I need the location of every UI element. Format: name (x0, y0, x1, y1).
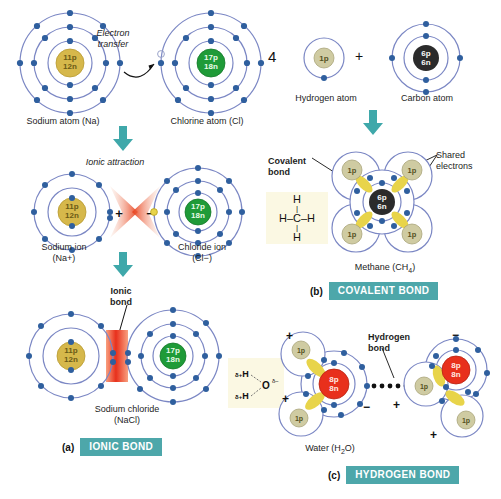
svg-text:+: + (115, 206, 123, 221)
svg-text:8p: 8p (329, 375, 338, 384)
svg-text:12n: 12n (64, 355, 78, 364)
section-b-bar: (b) COVALENT BOND (310, 282, 438, 300)
svg-text:17p: 17p (204, 53, 218, 62)
svg-text:11p: 11p (63, 53, 76, 62)
bond-tick-bottom: | (279, 224, 315, 231)
section-c-bar: (c) HYDROGEN BOND (328, 466, 459, 484)
hydrogen-atom-caption: Hydrogen atom (282, 93, 370, 104)
methane-h-right: H (307, 212, 315, 224)
carbon-atom-caption: Carbon atom (384, 93, 470, 104)
down-arrow-3-icon (360, 110, 386, 136)
charge-left-bottom: + (282, 392, 289, 406)
svg-text:8n: 8n (329, 384, 338, 393)
sodium-atom-caption: Sodium atom (Na) (10, 116, 116, 127)
section-a-name: IONIC BOND (80, 438, 162, 456)
section-c-letter: (c) (328, 470, 340, 481)
section-b-name: COVALENT BOND (329, 282, 439, 300)
sodium-ion: 11p 12n (31, 171, 113, 253)
water-formula-svg: δ+H δ+H O δ− (229, 359, 283, 407)
svg-text:δ+H: δ+H (235, 369, 249, 379)
svg-text:1p: 1p (462, 417, 470, 425)
sodium-chloride-molecule: 11p 12n 17p 1 (18, 305, 248, 403)
hydrogen-count-multiplier: 4 (268, 48, 276, 65)
svg-text:1p: 1p (348, 230, 357, 239)
methane-h-left: H (279, 212, 287, 224)
svg-text:6n: 6n (421, 58, 430, 67)
charge-left-top: + (286, 329, 293, 343)
svg-text:17p: 17p (166, 346, 180, 355)
chloride-ion-bonded: 17p 18n (125, 307, 222, 405)
hydrogen-bond-label: Hydrogen bond (368, 332, 428, 354)
svg-text:8n: 8n (451, 370, 460, 379)
plus-sign: + (355, 48, 363, 64)
chlorine-atom: 17p 18n (158, 10, 265, 116)
ionic-bond-leader-line (119, 305, 127, 333)
sodium-atom: 11p 12n (17, 10, 123, 116)
charge-right-plus-1: + (393, 398, 400, 412)
sodium-ion-bonded: 11p 12n (26, 311, 116, 401)
covalent-bond-label: Covalent bond (268, 156, 320, 178)
svg-text:1p: 1p (319, 54, 328, 63)
svg-text:1p: 1p (420, 383, 428, 391)
shared-electrons-label: Shared electrons (436, 150, 496, 172)
svg-text:11p: 11p (64, 346, 77, 355)
svg-text:6p: 6p (421, 49, 430, 58)
charge-left-delta-minus: − (363, 400, 370, 414)
carbon-atom: 6p 6n (389, 21, 463, 95)
ionic-step1-atoms: 11p 12n (8, 8, 258, 123)
svg-text:18n: 18n (166, 355, 180, 364)
sodium-chloride-caption: Sodium chloride (NaCl) (62, 404, 192, 426)
svg-text:18n: 18n (191, 211, 205, 220)
chlorine-atom-caption: Chlorine atom (Cl) (152, 116, 262, 127)
hydrogen-atom: 1p (304, 38, 344, 81)
section-b-letter: (b) (310, 286, 323, 297)
sodium-ion-caption: Sodium ion (Na+) (18, 242, 110, 264)
svg-text:11p: 11p (65, 202, 78, 211)
svg-text:1p: 1p (408, 166, 417, 175)
section-a-bar: (a) IONIC BOND (62, 438, 162, 456)
svg-text:6n: 6n (377, 202, 386, 211)
methane-h-bottom: H (279, 231, 315, 243)
charge-right-delta-minus: − (452, 328, 459, 342)
svg-text:1p: 1p (297, 347, 305, 355)
down-arrow-2-icon (110, 252, 136, 278)
electron-transfer-label: Electron transfer (78, 28, 148, 50)
methane-structural-formula: H | H–C–H | H (266, 192, 328, 244)
svg-text:12n: 12n (63, 62, 77, 71)
section-a-letter: (a) (62, 442, 74, 453)
svg-text:1p: 1p (348, 166, 357, 175)
charge-right-plus-2: + (430, 428, 437, 442)
figure-canvas: 11p 12n (0, 0, 501, 499)
section-c-name: HYDROGEN BOND (346, 466, 459, 484)
water-molecule-left: 8p 8n 1p 1p (279, 332, 370, 436)
svg-text:6p: 6p (377, 193, 386, 202)
svg-text:δ+H: δ+H (235, 391, 249, 401)
svg-text:1p: 1p (295, 415, 303, 423)
svg-text:8p: 8p (451, 361, 460, 370)
down-arrow-1-icon (110, 126, 136, 152)
svg-text:18n: 18n (204, 62, 218, 71)
svg-text:12n: 12n (65, 211, 79, 220)
covalent-step1-atoms: 1p 6p 6n (286, 20, 486, 100)
chloride-ion-caption: Chloride ion (Cl−) (152, 242, 252, 264)
svg-text:O: O (262, 380, 270, 391)
svg-text:17p: 17p (191, 202, 205, 211)
ionic-attraction-label: Ionic attraction (60, 157, 170, 168)
methane-caption: Methane (CH4) (330, 262, 440, 276)
bond-tick-top: | (279, 205, 315, 212)
svg-text:1p: 1p (408, 230, 417, 239)
water-caption: Water (H2O) (280, 443, 380, 457)
